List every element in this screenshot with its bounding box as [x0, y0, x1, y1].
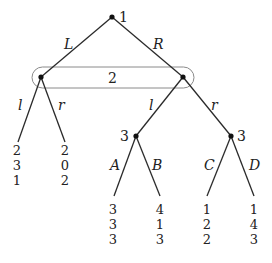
- node-root: [109, 14, 114, 19]
- payoff-C-p2: 2: [203, 217, 211, 232]
- payoff-B-p1: 4: [156, 202, 164, 217]
- edge-right-r: [183, 77, 231, 136]
- action-label-right-l: l: [149, 97, 153, 113]
- payoff-left-l-p1: 2: [13, 143, 21, 158]
- node-p3-left: [133, 133, 138, 138]
- action-label-left-r: r: [58, 97, 66, 113]
- edge-R: [112, 17, 183, 77]
- payoff-C-p1: 1: [203, 202, 211, 217]
- action-label-left-l: l: [18, 97, 22, 113]
- node-p3-right: [228, 133, 233, 138]
- action-label-A: A: [108, 157, 120, 173]
- action-label-D: D: [248, 157, 260, 173]
- node-p2-left: [38, 74, 43, 79]
- payoff-left-l-p2: 3: [13, 158, 21, 173]
- player-label-root: 1: [119, 9, 128, 25]
- payoff-A-p3: 3: [109, 232, 117, 247]
- edge-right-l: [136, 77, 183, 136]
- player-label-p3-left: 3: [120, 128, 129, 144]
- action-label-R: R: [152, 36, 164, 52]
- payoff-A-p2: 3: [109, 217, 117, 232]
- payoff-left-r-p3: 2: [61, 173, 69, 188]
- game-tree-diagram: 1 2 3 3 L R l r l r A B C D 2 3 1 2 0 2 …: [0, 0, 272, 263]
- payoff-C-p3: 2: [203, 232, 211, 247]
- payoff-left-r-p2: 0: [61, 158, 69, 173]
- action-label-C: C: [204, 157, 215, 173]
- action-label-right-r: r: [211, 97, 219, 113]
- action-label-B: B: [151, 157, 162, 173]
- edge-L: [41, 17, 112, 77]
- node-p2-right: [180, 74, 185, 79]
- payoff-left-l-p3: 1: [13, 173, 21, 188]
- payoff-left-r-p1: 2: [61, 143, 69, 158]
- payoff-D-p2: 4: [250, 217, 258, 232]
- action-label-L: L: [63, 36, 73, 52]
- payoff-D-p3: 3: [250, 232, 258, 247]
- player-label-infoset: 2: [108, 70, 117, 86]
- payoff-B-p3: 3: [156, 232, 164, 247]
- payoff-A-p1: 3: [109, 202, 117, 217]
- payoff-B-p2: 1: [156, 217, 164, 232]
- game-tree-canvas: 1 2 3 3 L R l r l r A B C D 2 3 1 2 0 2 …: [0, 0, 272, 263]
- player-label-p3-right: 3: [237, 128, 246, 144]
- payoff-D-p1: 1: [250, 202, 258, 217]
